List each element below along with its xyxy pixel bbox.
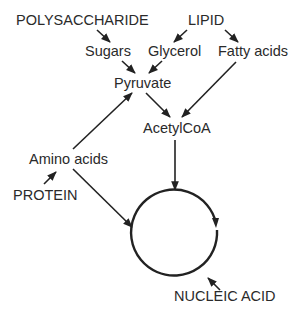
node-nucleic-acid: NUCLEIC ACID: [174, 288, 276, 305]
node-polysaccharide: POLYSACCHARIDE: [16, 12, 149, 29]
node-sugars: Sugars: [85, 43, 131, 60]
cycle-arrowhead-icon: [212, 218, 219, 228]
node-protein: PROTEIN: [13, 187, 77, 204]
node-lipid: LIPID: [188, 12, 224, 29]
node-amino-acids: Amino acids: [29, 151, 108, 168]
arrow-fatty-acids-acetylcoa: [182, 62, 236, 117]
node-glycerol: Glycerol: [148, 43, 201, 60]
node-pyruvate: Pyruvate: [114, 75, 171, 92]
arrow-lipid-fatty-acids: [225, 30, 238, 42]
arrow-pyruvate-acetylcoa: [146, 93, 170, 117]
arrow-sugars-pyruvate: [122, 61, 135, 73]
arrow-lipid-glycerol: [174, 30, 187, 42]
arrow-polysaccharide-sugars: [97, 30, 110, 42]
node-acetylcoa: AcetylCoA: [143, 120, 211, 137]
arrow-glycerol-pyruvate: [149, 61, 162, 73]
arrow-protein-amino-acids: [44, 172, 56, 184]
cycle-ring: [131, 190, 217, 276]
arrow-amino-acids-cycle: [73, 169, 132, 227]
arrow-amino-acids-pyruvate: [73, 93, 132, 149]
node-fatty-acids: Fatty acids: [218, 43, 288, 60]
